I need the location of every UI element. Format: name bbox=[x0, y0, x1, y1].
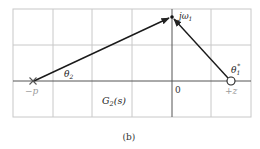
theta1-label: θ1* bbox=[231, 62, 240, 76]
s-plane-diagram: −p +z 0 jω1 θ2 θ1* G2(s) (b) bbox=[0, 0, 260, 149]
zero-label: +z bbox=[225, 86, 238, 96]
theta2-label: θ2 bbox=[64, 69, 73, 80]
grid bbox=[13, 9, 251, 117]
transfer-function-label: G2(s) bbox=[102, 95, 126, 108]
jw-label: jω1 bbox=[177, 11, 192, 22]
vector-from-zero bbox=[174, 19, 228, 78]
vector-from-pole bbox=[34, 18, 169, 81]
figure-caption: (b) bbox=[123, 132, 136, 142]
circle-icon bbox=[227, 77, 235, 85]
test-point-dot bbox=[170, 15, 174, 19]
pole-label: −p bbox=[25, 86, 39, 96]
origin-label: 0 bbox=[175, 85, 181, 95]
